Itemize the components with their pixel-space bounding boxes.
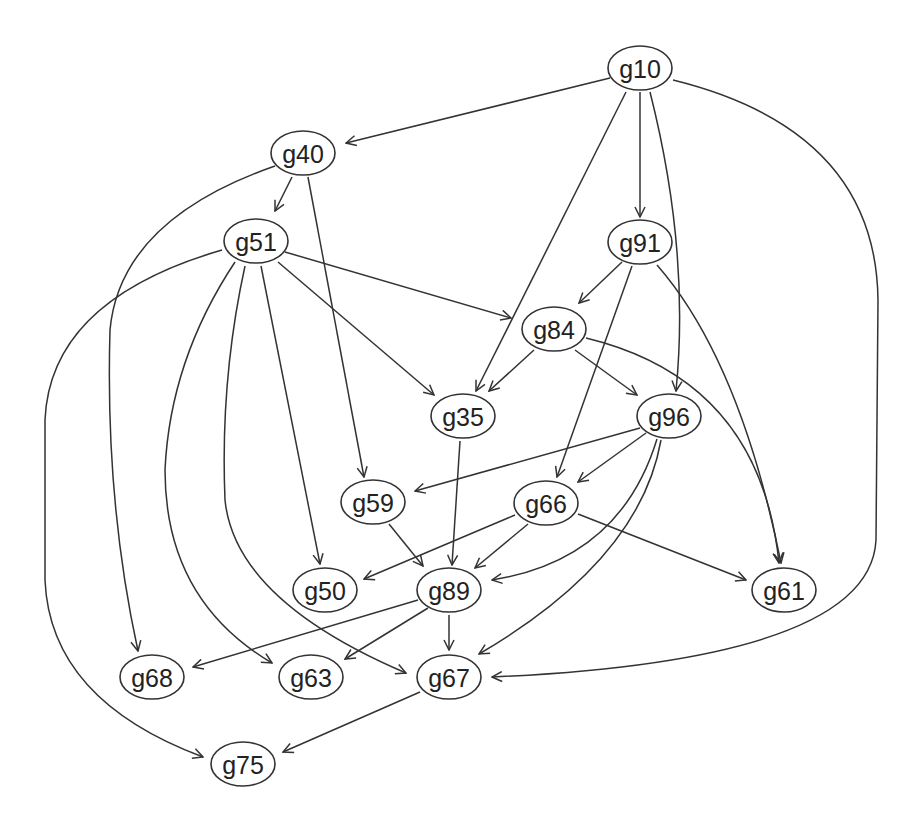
node-label: g91: [619, 229, 661, 257]
edge-g51-to-g84: [285, 252, 511, 318]
edge-path: [283, 692, 420, 752]
edge-g96-to-g67: [479, 440, 661, 654]
node-label: g35: [442, 403, 484, 431]
edge-path: [278, 262, 434, 395]
edge-path: [308, 177, 364, 477]
edge-path: [415, 428, 640, 491]
edge-path: [346, 78, 610, 143]
node-g50: g50: [293, 568, 357, 612]
edge-path: [557, 266, 632, 477]
edge-g66-to-g89: [475, 524, 528, 568]
node-label: g61: [763, 577, 805, 605]
node-g35: g35: [431, 394, 495, 438]
edge-path: [492, 80, 878, 677]
node-g91: g91: [608, 220, 672, 264]
nodes-layer: g10g40g51g91g84g35g96g59g66g50g89g61g68g…: [120, 46, 816, 786]
edge-g40-to-g51: [275, 177, 292, 211]
edge-path: [345, 608, 428, 659]
edge-path: [452, 441, 460, 565]
node-label: g59: [352, 489, 394, 517]
node-g40: g40: [271, 131, 335, 175]
edge-g89-to-g63: [345, 608, 428, 659]
edge-g51-to-g63: [165, 262, 272, 663]
node-g63: g63: [279, 655, 343, 699]
edge-path: [575, 350, 637, 395]
edge-g66-to-g61: [578, 514, 746, 580]
node-g67: g67: [417, 655, 481, 699]
node-g59: g59: [341, 480, 405, 524]
node-label: g63: [290, 664, 332, 692]
edge-path: [579, 262, 622, 303]
edge-path: [479, 440, 661, 654]
node-label: g68: [131, 664, 173, 692]
edge-g35-to-g89: [452, 441, 460, 565]
node-label: g89: [428, 577, 470, 605]
node-label: g40: [282, 140, 324, 168]
edge-g10-to-g67: [492, 80, 878, 677]
edge-path: [475, 524, 528, 568]
node-g10: g10: [608, 46, 672, 90]
node-label: g67: [428, 664, 470, 692]
edge-g67-to-g75: [283, 692, 420, 752]
node-label: g75: [222, 751, 264, 779]
edge-g51-to-g50: [261, 266, 320, 564]
node-label: g51: [235, 228, 277, 256]
node-g89: g89: [417, 568, 481, 612]
edge-g91-to-g84: [579, 262, 622, 303]
edge-g96-to-g66: [578, 433, 646, 482]
edge-g51-to-g35: [278, 262, 434, 395]
edge-path: [285, 252, 511, 318]
node-g68: g68: [120, 655, 184, 699]
node-label: g84: [533, 316, 575, 344]
edge-path: [275, 177, 292, 211]
edge-path: [578, 514, 746, 580]
edge-g84-to-g35: [489, 350, 534, 391]
edge-path: [489, 350, 534, 391]
edge-g96-to-g59: [415, 428, 640, 491]
edge-path: [578, 433, 646, 482]
edge-path: [165, 262, 272, 663]
directed-graph: g10g40g51g91g84g35g96g59g66g50g89g61g68g…: [0, 0, 915, 832]
node-label: g50: [304, 577, 346, 605]
node-label: g10: [619, 55, 661, 83]
edge-path: [261, 266, 320, 564]
edge-g91-to-g66: [557, 266, 632, 477]
node-g96: g96: [637, 394, 701, 438]
edge-g84-to-g96: [575, 350, 637, 395]
node-g66: g66: [514, 481, 578, 525]
edge-path: [389, 524, 423, 566]
node-g61: g61: [752, 568, 816, 612]
node-g51: g51: [224, 219, 288, 263]
edge-g10-to-g40: [346, 78, 610, 143]
edge-g59-to-g89: [389, 524, 423, 566]
node-label: g96: [648, 403, 690, 431]
node-label: g66: [525, 490, 567, 518]
node-g84: g84: [522, 307, 586, 351]
node-g75: g75: [211, 742, 275, 786]
edge-g40-to-g59: [308, 177, 364, 477]
